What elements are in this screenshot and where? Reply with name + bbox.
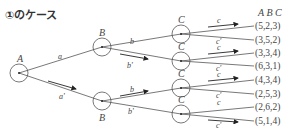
edge-label-b-lower: b: [130, 85, 134, 94]
result-2: (3,5,2): [255, 35, 280, 46]
arrow-c1-icon: [208, 24, 238, 27]
node-label-a: A: [16, 53, 24, 64]
edge-label-c4-prime: c': [216, 121, 222, 130]
edge-label-a: a: [58, 52, 62, 61]
result-4: (6,3,1): [255, 61, 280, 72]
node-label-b-lower: B: [99, 112, 105, 123]
edge-label-a-prime: a': [59, 92, 65, 101]
node-label-c1: C: [178, 14, 185, 25]
edge-b-lower: [102, 88, 181, 101]
edge-label-c2: c: [217, 43, 221, 52]
result-8: (5,1,4): [255, 116, 280, 127]
node-label-c2: C: [178, 41, 185, 52]
arrow-c4-icon: [208, 120, 238, 122]
edge-b-prime-lower: [102, 101, 181, 114]
arrow-c2-icon: [208, 51, 238, 54]
node-label-b-upper: B: [99, 27, 105, 38]
node-label-c3: C: [178, 68, 185, 79]
edge-label-b-upper: b: [130, 37, 134, 46]
edge-label-c3: c: [217, 70, 221, 79]
edge-label-b-prime-lower: b': [128, 107, 134, 116]
arrow-c3-icon: [208, 78, 238, 81]
payoff-header: A B C: [257, 7, 282, 18]
result-6: (2,5,3): [255, 89, 280, 100]
result-7: (2,6,2): [255, 102, 280, 113]
arrow-b-icon: [120, 91, 148, 96]
edge-label-c4: c: [217, 98, 221, 107]
result-3: (3,3,4): [255, 48, 280, 59]
node-label-c4: C: [178, 94, 185, 105]
result-1: (5,2,3): [255, 21, 280, 32]
result-5: (4,3,4): [255, 75, 280, 86]
game-tree-diagram: A B B C C C C a a' b b' b b' c c' c c' c…: [0, 0, 295, 136]
edge-b-upper: [102, 34, 181, 47]
edge-b-prime-upper: [102, 47, 181, 61]
edge-label-b-prime-upper: b': [127, 61, 133, 70]
edge-label-c1: c: [217, 16, 221, 25]
